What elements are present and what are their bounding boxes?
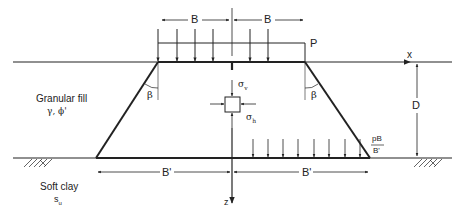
B-left-label: B: [191, 14, 198, 25]
granular-fill-label: Granular fill: [36, 94, 87, 104]
sigma-v-label: σv: [238, 80, 248, 91]
surface-load-arrows: [158, 29, 268, 61]
B-right-label: B: [264, 14, 271, 25]
Bprime-right-label: B': [302, 167, 311, 178]
D-label: D: [412, 100, 420, 111]
ground-hatch-left: [24, 159, 52, 167]
Bprime-left-label: B': [162, 167, 171, 178]
pB-numerator: pB: [372, 135, 382, 143]
clay-strength-label: su: [54, 195, 62, 206]
x-axis-label: x: [407, 50, 412, 60]
base-pressure-arrows: [253, 139, 360, 157]
sigma-h-label: σh: [246, 113, 256, 124]
soft-clay-label: Soft clay: [40, 182, 78, 192]
fill-parameters-label: γ, ϕ': [47, 107, 67, 116]
left-slope: [96, 62, 158, 158]
load-block: [158, 43, 305, 62]
pB-denominator: B': [373, 147, 380, 155]
soil-element: [225, 97, 240, 112]
beta-right-arc: [305, 84, 318, 88]
z-axis-label: z: [224, 198, 229, 207]
ground-hatch-right: [414, 159, 442, 167]
P-label: P: [310, 38, 317, 49]
beta-left-arc: [145, 84, 158, 88]
beta-left-label: β: [147, 90, 153, 100]
beta-right-label: β: [311, 90, 317, 100]
